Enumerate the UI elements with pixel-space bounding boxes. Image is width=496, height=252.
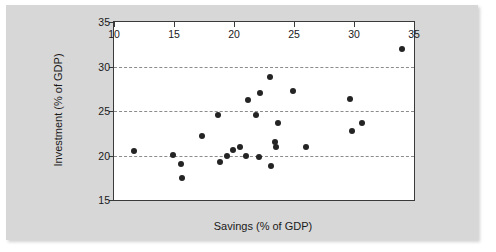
data-point	[268, 163, 274, 169]
plot-frame: 1520253035101520253035	[113, 21, 415, 201]
x-tick-label: 25	[288, 29, 300, 40]
data-point	[399, 46, 405, 52]
data-point	[359, 120, 365, 126]
data-point	[199, 133, 205, 139]
data-point	[179, 175, 185, 181]
x-tick-mark	[414, 22, 415, 27]
data-point	[253, 112, 259, 118]
gridline-y-20	[114, 156, 414, 157]
data-point	[178, 161, 184, 167]
x-tick-mark	[354, 22, 355, 27]
x-axis-label: Savings (% of GDP)	[113, 220, 413, 232]
y-tick-label: 15	[98, 195, 110, 206]
data-point	[215, 112, 221, 118]
data-point	[256, 154, 262, 160]
data-point	[275, 120, 281, 126]
y-axis-label: Investment (% of GDP)	[52, 53, 64, 166]
gridline-y-30	[114, 67, 414, 68]
data-point	[349, 128, 355, 134]
x-tick-mark	[174, 22, 175, 27]
gridline-y-25	[114, 111, 414, 112]
plot-area	[114, 22, 414, 200]
y-tick-label: 30	[98, 61, 110, 72]
y-tick-label: 35	[98, 17, 110, 28]
y-tick-label: 25	[98, 106, 110, 117]
x-tick-label: 20	[228, 29, 240, 40]
data-point	[273, 144, 279, 150]
x-tick-label: 15	[168, 29, 180, 40]
data-point	[237, 144, 243, 150]
x-tick-label: 35	[408, 29, 420, 40]
data-point	[170, 152, 176, 158]
x-tick-mark	[234, 22, 235, 27]
x-tick-label: 30	[348, 29, 360, 40]
data-point	[230, 147, 236, 153]
data-point	[290, 88, 296, 94]
data-point	[243, 153, 249, 159]
x-tick-mark	[114, 22, 115, 27]
data-point	[131, 148, 137, 154]
data-point	[347, 96, 353, 102]
data-point	[217, 159, 223, 165]
data-point	[245, 97, 251, 103]
data-point	[224, 153, 230, 159]
scatter-plot-figure: 1520253035101520253035 Savings (% of GDP…	[0, 0, 496, 252]
data-point	[303, 144, 309, 150]
data-point	[257, 90, 263, 96]
data-point	[267, 74, 273, 80]
x-tick-mark	[294, 22, 295, 27]
y-tick-label: 20	[98, 150, 110, 161]
x-tick-label: 10	[108, 29, 120, 40]
